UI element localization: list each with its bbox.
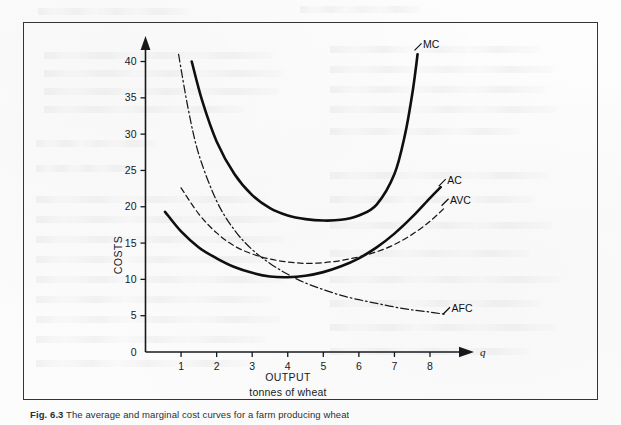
- x-axis-ticks: 12345678: [178, 352, 433, 372]
- y-tick-label: 30: [125, 128, 137, 140]
- caption-text: The average and marginal cost curves for…: [66, 409, 349, 420]
- axes-group: [141, 36, 474, 357]
- x-axis-title: OUTPUT: [265, 371, 311, 383]
- y-axis-ticks: 0510152025303540: [125, 55, 146, 357]
- y-axis-title: COSTS: [112, 236, 124, 274]
- curve-label-leader: [443, 307, 450, 314]
- caption-number: Fig. 6.3: [30, 409, 64, 420]
- curve-label-avc: AVC: [450, 194, 471, 206]
- curve-label-ac: AC: [447, 174, 462, 186]
- x-tick-label: 2: [214, 360, 220, 372]
- y-tick-label: 20: [125, 200, 137, 212]
- curve-mc: [192, 54, 418, 220]
- x-tick-label: 7: [392, 360, 398, 372]
- y-tick-label: 5: [131, 309, 137, 321]
- y-tick-label: 25: [125, 164, 137, 176]
- x-tick-label: 1: [178, 360, 184, 372]
- curve-label-mc: MC: [423, 38, 440, 50]
- curves-group: [165, 54, 444, 314]
- x-tick-label: 6: [356, 360, 362, 372]
- figure-caption: Fig. 6.3 The average and marginal cost c…: [30, 409, 349, 425]
- x-axis-symbol-q: q: [480, 346, 486, 358]
- y-tick-label: 0: [131, 346, 137, 358]
- x-tick-label: 3: [249, 360, 255, 372]
- curve-label-leader: [439, 179, 446, 186]
- figure-root: 0510152025303540 12345678 MCACAVCAFC COS…: [0, 0, 621, 425]
- x-tick-label: 8: [427, 360, 433, 372]
- y-tick-label: 40: [125, 55, 137, 67]
- y-tick-label: 35: [125, 91, 137, 103]
- y-axis-arrowhead: [141, 36, 151, 50]
- curve-label-afc: AFC: [451, 302, 472, 314]
- x-axis-arrowhead: [459, 347, 474, 357]
- x-axis-subtitle: tonnes of wheat: [249, 386, 326, 398]
- y-tick-label: 10: [125, 273, 137, 285]
- x-tick-label: 4: [285, 360, 291, 372]
- curve-annotations: MCACAVCAFC: [415, 38, 473, 314]
- curve-label-leader: [442, 199, 449, 206]
- cost-curves-chart: 0510152025303540 12345678 MCACAVCAFC COS…: [0, 0, 621, 425]
- curve-label-leader: [415, 43, 422, 50]
- x-tick-label: 5: [320, 360, 326, 372]
- y-tick-label: 15: [125, 237, 137, 249]
